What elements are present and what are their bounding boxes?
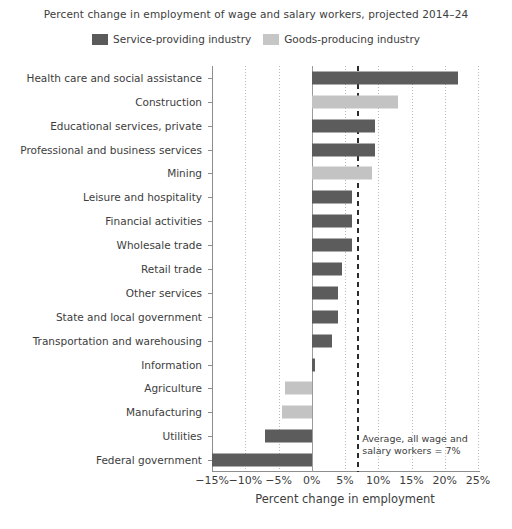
y-axis-label: Educational services, private [50,120,202,132]
x-axis-tick-label: 10% [366,474,390,487]
x-axis-tick-labels: −15%−10%−5%0%5%10%15%20%25% [0,474,512,492]
bar-row [212,90,478,114]
bar-row [212,329,478,353]
y-axis-label: State and local government [56,311,202,323]
chart-legend: Service-providing industry Goods-produci… [0,33,512,45]
average-annotation-label: Average, all wage and salary workers = 7… [362,433,468,456]
bar-row [212,257,478,281]
legend-item-service: Service-providing industry [92,33,251,45]
y-axis-labels: Health care and social assistanceConstru… [0,66,208,472]
x-axis-tick-label: 25% [466,474,490,487]
x-axis-tick-label: −10% [228,474,262,487]
bar-row [212,376,478,400]
gridline-8 [478,66,479,472]
bar[interactable] [282,406,312,419]
bar-row [212,66,478,90]
bar[interactable] [312,95,398,108]
bar[interactable] [312,334,332,347]
y-axis-label: Agriculture [144,382,202,394]
bar[interactable] [312,71,458,84]
y-axis-label: Utilities [162,430,202,442]
y-axis-label: Retail trade [141,263,202,275]
y-axis-label: Construction [135,96,202,108]
bars-layer [212,66,478,472]
bar[interactable] [312,143,375,156]
x-axis-tick-label: −15% [195,474,229,487]
x-axis-tick-label: −5% [265,474,292,487]
legend-label-goods: Goods-producing industry [284,33,420,45]
bar-row [212,209,478,233]
chart-title: Percent change in employment of wage and… [0,8,512,20]
y-axis-label: Health care and social assistance [27,72,202,84]
bar[interactable] [312,286,339,299]
x-axis-tick-label: 20% [433,474,457,487]
bar[interactable] [212,454,312,467]
x-axis-tick-label: 0% [303,474,320,487]
legend-label-service: Service-providing industry [113,33,251,45]
y-axis-label: Information [141,359,202,371]
bar[interactable] [312,167,372,180]
bar[interactable] [312,191,352,204]
legend-swatch-goods [263,34,279,45]
x-axis-tick-label: 5% [336,474,353,487]
y-axis-label: Manufacturing [126,406,202,418]
x-axis-tick-label: 15% [399,474,423,487]
y-axis-label: Professional and business services [20,144,202,156]
y-axis-label: Other services [126,287,202,299]
bar-row [212,233,478,257]
y-axis-label: Federal government [96,454,202,466]
bar-row [212,281,478,305]
bar[interactable] [285,382,312,395]
bar-row [212,162,478,186]
bar[interactable] [312,119,375,132]
legend-swatch-service [92,34,108,45]
chart-container: Percent change in employment of wage and… [0,0,512,529]
bar[interactable] [312,310,339,323]
bar[interactable] [312,239,352,252]
bar[interactable] [312,262,342,275]
x-axis-title: Percent change in employment [212,492,478,506]
bar-row [212,353,478,377]
bar[interactable] [312,358,315,371]
bar-row [212,114,478,138]
y-axis-label: Financial activities [105,215,202,227]
bar-row [212,185,478,209]
plot-area [212,66,478,472]
y-axis-label: Mining [167,167,202,179]
bar[interactable] [312,215,352,228]
legend-item-goods: Goods-producing industry [263,33,420,45]
y-axis-label: Transportation and warehousing [33,335,202,347]
y-axis-label: Wholesale trade [117,239,202,251]
y-axis-label: Leisure and hospitality [83,191,202,203]
bar-row [212,138,478,162]
bar-row [212,305,478,329]
bar[interactable] [265,430,312,443]
bar-row [212,400,478,424]
